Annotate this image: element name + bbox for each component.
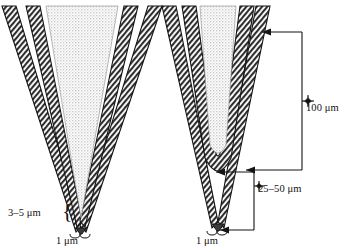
right-pipette-group	[162, 6, 314, 235]
label-shank-diameter: 3–5 μm	[8, 208, 41, 219]
pipette-diagram	[0, 0, 356, 252]
label-right-tip-diameter: 1 μm	[196, 236, 218, 247]
label-left-tip-diameter: 1 μm	[56, 236, 78, 247]
shank-diameter-brace: {	[62, 200, 73, 222]
figure-root: 3–5 μm { 1 μm 100 μm 25–50 μm 1 μm	[0, 0, 356, 252]
left-tip-orifice	[76, 228, 86, 234]
left-pipette-group	[2, 6, 162, 238]
label-tip-length: 25–50 μm	[258, 184, 301, 195]
label-taper-length: 100 μm	[306, 103, 339, 114]
